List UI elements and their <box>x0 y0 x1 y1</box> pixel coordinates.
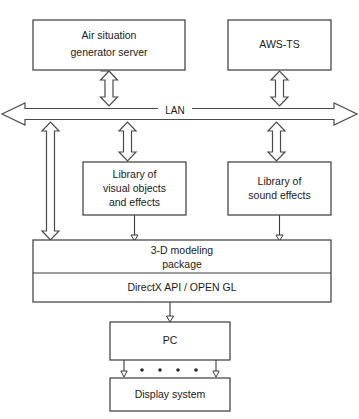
connector-sound-library-to-modeling <box>276 215 283 241</box>
node-aws-ts[interactable]: AWS-TS <box>228 20 331 70</box>
connector-lan-to-modeling-package <box>42 122 59 240</box>
node-air-situation-generator-server[interactable]: Air situation generator server <box>33 20 185 70</box>
ellipsis-dot-2 <box>158 368 162 372</box>
library-visual-label-line1: Library of <box>113 168 157 180</box>
ellipsis-dot-3 <box>176 368 180 372</box>
library-sound-label-line1: Library of <box>258 175 302 187</box>
display-system-label: Display system <box>135 388 206 400</box>
pc-display-right-arrowhead <box>213 371 219 377</box>
connector-lan-to-sound-library <box>268 122 285 161</box>
lan-label: LAN <box>165 105 184 116</box>
connector-pc-to-display-right <box>213 360 219 377</box>
connector-lan-to-visual-library <box>119 122 136 161</box>
connector-visual-library-to-modeling <box>131 215 138 241</box>
pc-display-left-arrowhead <box>121 371 127 377</box>
lan-modeling-double-arrow <box>42 122 59 240</box>
air-situation-server-label-line2: generator server <box>70 46 148 58</box>
node-display-system[interactable]: Display system <box>110 378 230 411</box>
block-diagram-canvas: Air situation generator server AWS-TS LA… <box>0 0 359 419</box>
node-3d-modeling-package[interactable]: 3-D modeling package DirectX API / OPEN … <box>33 240 331 302</box>
node-pc[interactable]: PC <box>110 322 230 360</box>
graphics-api-label: DirectX API / OPEN GL <box>127 281 236 293</box>
ellipsis-dot-1 <box>140 368 144 372</box>
modeling-package-label-line1: 3-D modeling <box>151 244 214 256</box>
connector-modeling-to-pc <box>167 302 174 322</box>
library-visual-label-line2: visual objects <box>103 182 166 194</box>
ellipsis-dot-4 <box>194 368 198 372</box>
node-lan-bus[interactable]: LAN <box>2 103 357 125</box>
connector-server-to-lan <box>101 71 118 106</box>
node-library-of-visual-objects-and-effects[interactable]: Library of visual objects and effects <box>83 162 186 215</box>
modeling-package-label-line2: package <box>162 258 202 270</box>
block-diagram-svg: Air situation generator server AWS-TS LA… <box>0 0 359 419</box>
node-library-of-sound-effects[interactable]: Library of sound effects <box>228 162 331 215</box>
library-visual-label-line3: and effects <box>109 196 160 208</box>
air-situation-server-label-line1: Air situation <box>82 29 137 41</box>
connector-pc-to-display-left <box>121 360 127 377</box>
awsts-lan-double-arrow <box>271 71 288 106</box>
aws-ts-label: AWS-TS <box>259 38 299 50</box>
server-lan-double-arrow <box>101 71 118 106</box>
lan-sound-library-double-arrow <box>268 122 285 161</box>
connector-awsts-to-lan <box>271 71 288 106</box>
library-sound-label-line2: sound effects <box>248 189 310 201</box>
lan-visual-library-double-arrow <box>119 122 136 161</box>
connector-pc-to-display-ellipsis <box>140 368 198 372</box>
modeling-pc-arrowhead <box>167 316 174 322</box>
pc-label: PC <box>163 334 178 346</box>
